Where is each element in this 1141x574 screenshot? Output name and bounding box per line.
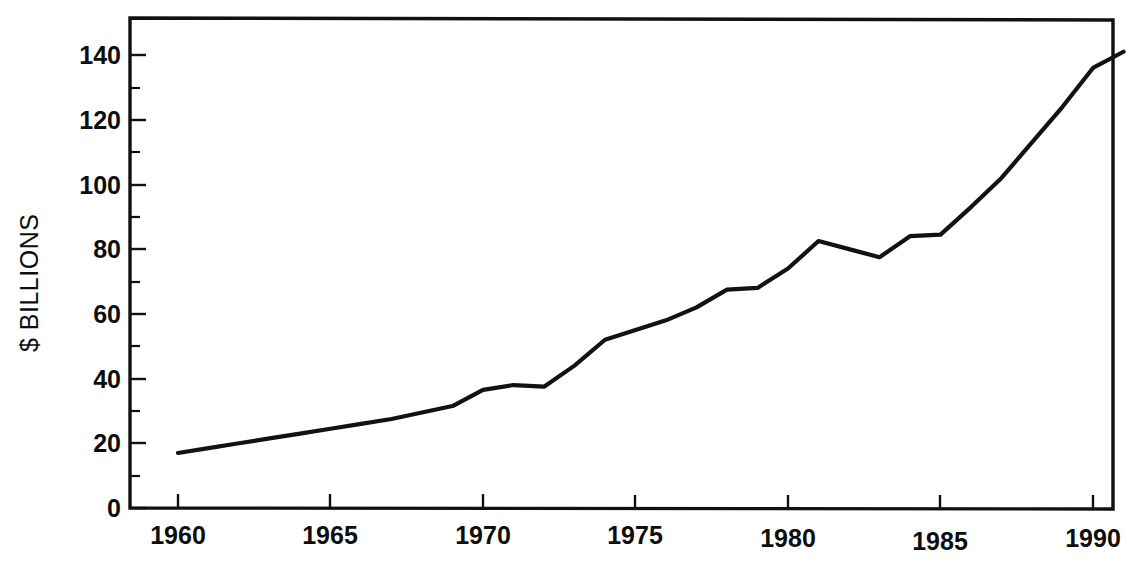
- y-tick-label: 100: [79, 171, 121, 199]
- y-tick-label: 40: [93, 365, 121, 393]
- x-tick-label: 1985: [912, 527, 968, 555]
- y-tick-label: 20: [93, 429, 121, 457]
- y-tick-label: 140: [79, 41, 121, 69]
- x-tick-label: 1960: [150, 521, 206, 549]
- data-series-line: [178, 52, 1124, 453]
- x-tick-label: 1990: [1065, 524, 1121, 552]
- chart-figure: $ BILLIONS 140 120 100 80 60 40 20 0 196…: [0, 0, 1141, 574]
- y-tick-label: 120: [79, 106, 121, 134]
- x-tick-label: 1970: [455, 521, 511, 549]
- x-tick-label: 1975: [607, 521, 663, 549]
- y-tick-label: 80: [93, 235, 121, 263]
- y-axis-title: $ BILLIONS: [15, 214, 43, 352]
- x-tick-label: 1980: [760, 524, 816, 552]
- caption-strip: [0, 564, 1141, 574]
- y-axis-tick-labels: 140 120 100 80 60 40 20 0: [79, 41, 121, 522]
- x-axis-tick-labels: 1960 1965 1970 1975 1980 1985 1990: [150, 521, 1121, 555]
- x-tick-label: 1965: [302, 521, 358, 549]
- y-tick-label: 60: [93, 300, 121, 328]
- y-tick-label: 0: [107, 494, 121, 522]
- line-chart: $ BILLIONS 140 120 100 80 60 40 20 0 196…: [0, 0, 1141, 574]
